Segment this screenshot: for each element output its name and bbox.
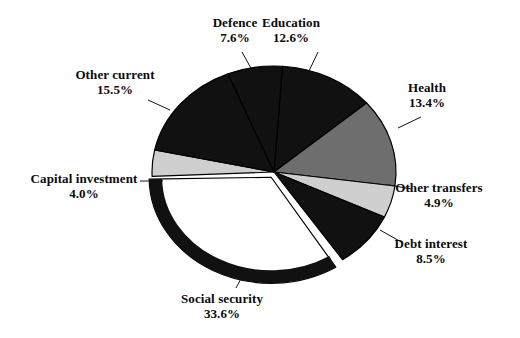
pie-label-name-debt-interest: Debt interest xyxy=(351,237,511,252)
pie-label-value-health: 13.4% xyxy=(347,96,507,111)
pie-label-name-social-security: Social security xyxy=(142,292,302,307)
pie-label-debt-interest: Debt interest8.5% xyxy=(351,237,511,266)
pie-label-value-other-transfers: 4.9% xyxy=(359,196,519,211)
pie-label-capital-investment: Capital investment4.0% xyxy=(4,172,164,201)
pie-label-value-social-security: 33.6% xyxy=(142,307,302,322)
pie-label-other-current: Other current15.5% xyxy=(35,68,195,97)
pie-label-social-security: Social security33.6% xyxy=(142,292,302,321)
pie-label-name-other-transfers: Other transfers xyxy=(359,181,519,196)
pie-label-name-other-current: Other current xyxy=(35,68,195,83)
pie-label-other-transfers: Other transfers4.9% xyxy=(359,181,519,210)
pie-label-value-capital-investment: 4.0% xyxy=(4,187,164,202)
pie-label-name-defence: Defence xyxy=(155,16,315,31)
pie-chart-figure: Education12.6%Health13.4%Other transfers… xyxy=(0,0,520,338)
leader-line-defence xyxy=(242,52,252,70)
leader-line-health xyxy=(398,117,421,128)
leader-line-education xyxy=(309,52,318,71)
leader-line-other-current xyxy=(148,100,170,110)
pie-label-health: Health13.4% xyxy=(347,81,507,110)
pie-label-value-defence: 7.6% xyxy=(155,31,315,46)
pie-label-defence: Defence7.6% xyxy=(155,16,315,45)
pie-label-value-other-current: 15.5% xyxy=(35,83,195,98)
pie-label-name-health: Health xyxy=(347,81,507,96)
pie-label-name-capital-investment: Capital investment xyxy=(4,172,164,187)
pie-label-value-debt-interest: 8.5% xyxy=(351,252,511,267)
pie-chart-canvas xyxy=(0,0,520,338)
